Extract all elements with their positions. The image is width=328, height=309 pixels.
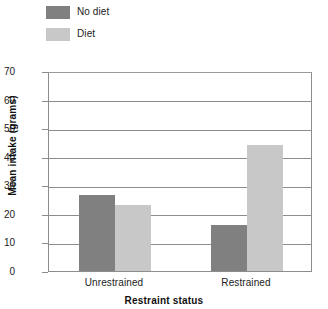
legend-item-diet: Diet: [46, 23, 109, 45]
y-axis-title: Mean intake (grams): [7, 71, 18, 221]
legend-item-no-diet: No diet: [46, 1, 109, 23]
legend-label-no-diet: No diet: [77, 7, 109, 17]
x-tick-label-unrestrained: Unrestrained: [64, 278, 164, 288]
x-axis-title: Restraint status: [0, 295, 328, 306]
y-tick-mark: [42, 272, 48, 273]
bar-diet-restrained: [247, 145, 283, 271]
bar-no-diet-unrestrained: [79, 195, 115, 271]
chart-legend: No diet Diet: [46, 1, 109, 45]
plot-area: [48, 72, 312, 272]
legend-swatch-no-diet: [46, 6, 70, 19]
gridline: [49, 130, 311, 131]
bar-no-diet-restrained: [211, 225, 247, 271]
y-tick-label: 10: [0, 238, 15, 248]
bar-chart: No diet Diet 010203040506070 Mean intake…: [0, 0, 328, 309]
x-tick-label-restrained: Restrained: [196, 278, 296, 288]
legend-swatch-diet: [46, 28, 70, 41]
bar-diet-unrestrained: [115, 205, 151, 271]
legend-label-diet: Diet: [77, 29, 95, 39]
gridline: [49, 101, 311, 102]
y-tick-label: 0: [0, 267, 15, 277]
